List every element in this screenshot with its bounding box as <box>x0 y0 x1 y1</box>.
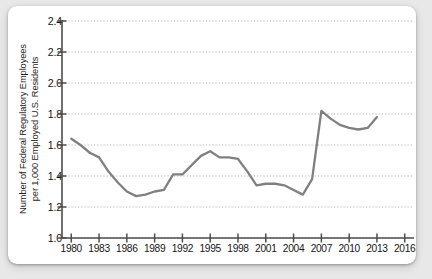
plot-area <box>0 0 432 279</box>
data-line-series-1 <box>71 111 377 196</box>
chart-figure: Number of Federal Regulatory Employees p… <box>0 0 432 279</box>
axis-ticks <box>58 21 405 243</box>
